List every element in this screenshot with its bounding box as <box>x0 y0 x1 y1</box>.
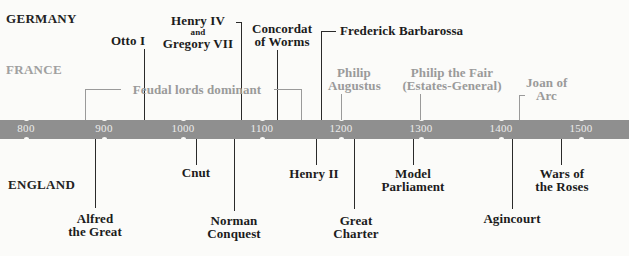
bracket-feudal-left-leg <box>85 89 86 120</box>
event-philip-augustus: Philip Augustus <box>328 66 380 92</box>
timeline-diagram: GERMANY FRANCE ENGLAND 800 900 1000 1100… <box>0 0 629 256</box>
connector-wars-of-the-roses <box>561 139 562 165</box>
tick-900: 900 <box>84 122 124 134</box>
tick-1200: 1200 <box>321 122 361 134</box>
joan-line2: Arc <box>526 89 582 102</box>
event-norman-conquest: Norman Conquest <box>198 214 270 240</box>
tick-notch <box>260 137 265 140</box>
connector-joan <box>519 95 520 120</box>
event-henry-iv-gregory-vii: Henry IV and Gregory VII <box>158 14 238 50</box>
connector-great-charter <box>354 139 355 209</box>
bracket-feudal-left <box>85 89 121 90</box>
event-cnut: Cnut <box>176 166 216 179</box>
philip-augustus-line2: Augustus <box>328 79 380 92</box>
event-great-charter: Great Charter <box>328 214 384 240</box>
tick-notch <box>579 118 584 121</box>
tick-notch <box>181 118 186 121</box>
bracket-feudal-right <box>274 89 302 90</box>
model-line2: Parliament <box>376 180 450 193</box>
connector-agincourt <box>512 139 513 209</box>
tick-notch <box>24 118 29 121</box>
concordat-line2: of Worms <box>248 35 316 48</box>
bracket-feudal-right-leg <box>301 89 302 120</box>
tick-notch <box>102 118 107 121</box>
tick-1300: 1300 <box>401 122 441 134</box>
region-france: FRANCE <box>6 62 62 78</box>
event-frederick-barbarossa: Frederick Barbarossa <box>340 24 463 37</box>
event-model-parliament: Model Parliament <box>376 167 450 193</box>
tick-1100: 1100 <box>242 122 282 134</box>
tick-1400: 1400 <box>481 122 521 134</box>
connector-philip-augustus <box>341 94 342 120</box>
event-alfred-the-great: Alfred the Great <box>62 212 128 238</box>
wars-line2: the Roses <box>530 180 594 193</box>
tick-notch <box>499 118 504 121</box>
connector-alfred <box>95 139 96 208</box>
henry-iv-line1: Henry IV <box>158 14 238 27</box>
event-henry-ii: Henry II <box>284 167 344 180</box>
connector-cnut <box>196 139 197 165</box>
connector-henry-iv <box>241 22 242 120</box>
connector-model-parliament <box>413 139 414 165</box>
connector-henry-ii <box>316 139 317 165</box>
tick-notch <box>102 137 107 140</box>
tick-notch <box>579 137 584 140</box>
connector-norman-conquest <box>234 139 235 211</box>
philip-fair-line2: (Estates-General) <box>400 79 504 92</box>
connector-frederick-hook <box>321 31 336 32</box>
tick-notch <box>181 137 186 140</box>
event-otto-i: Otto I <box>108 34 148 47</box>
tick-notch <box>24 137 29 140</box>
tick-800: 800 <box>6 122 46 134</box>
connector-frederick <box>321 31 322 120</box>
event-feudal-lords-dominant: Feudal lords dominant <box>122 83 272 96</box>
region-germany: GERMANY <box>6 11 77 27</box>
event-wars-of-the-roses: Wars of the Roses <box>530 167 594 193</box>
norman-line2: Conquest <box>198 227 270 240</box>
tick-1500: 1500 <box>561 122 601 134</box>
connector-philip-fair <box>420 94 421 120</box>
tick-notch <box>419 137 424 140</box>
charter-line2: Charter <box>328 227 384 240</box>
tick-notch <box>339 137 344 140</box>
tick-notch <box>499 137 504 140</box>
event-concordat-of-worms: Concordat of Worms <box>248 22 316 48</box>
event-agincourt: Agincourt <box>476 212 548 225</box>
event-philip-the-fair: Philip the Fair (Estates-General) <box>400 66 504 92</box>
tick-notch <box>260 118 265 121</box>
event-joan-of-arc: Joan of Arc <box>526 76 582 102</box>
henry-iv-line2: Gregory VII <box>158 37 238 50</box>
connector-concordat <box>277 50 278 120</box>
region-england: ENGLAND <box>8 177 75 193</box>
tick-1000: 1000 <box>163 122 203 134</box>
alfred-line2: the Great <box>62 225 128 238</box>
